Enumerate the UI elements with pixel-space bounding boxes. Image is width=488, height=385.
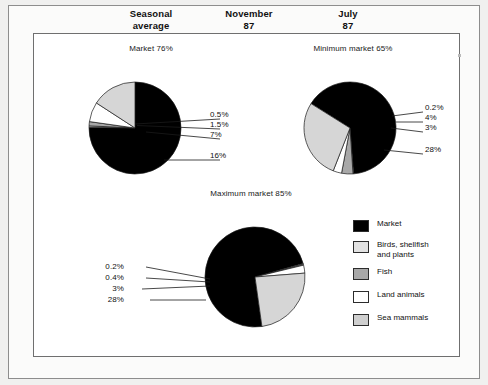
legend-label-birds-line1: Birds, shellfish [377,240,429,249]
header-row: Seasonal average November 87 July 87 [8,6,480,34]
pie-chart-2-leaders [334,78,449,188]
legend-label-market: Market [377,219,401,229]
header-column-july: July 87 [308,8,388,31]
legend-swatch-fish [353,268,369,280]
header-november-line2: 87 [204,20,294,32]
header-july-line1: July [308,8,388,20]
legend-label-sea-mammals: Sea mammals [377,313,428,323]
chart-1-title: Market 76% [96,44,206,53]
chart-3-callout-1: 0.4% [92,273,124,282]
page-canvas: Seasonal average November 87 July 87 Mar… [0,0,488,385]
chart-1-callout-1: 1.5% [210,120,229,129]
legend-label-fish: Fish [377,267,392,277]
chart-3-callout-2: 3% [92,284,124,293]
header-seasonal-line2: average [106,20,196,32]
legend-label-birds-line2: and plants [377,250,414,259]
chart-3-title: Maximum market 85% [186,189,316,198]
chart-2-callout-1: 4% [425,113,437,122]
chart-2-callout-3: 28% [425,145,441,154]
header-seasonal-line1: Seasonal [106,8,196,20]
header-july-line2: 87 [308,20,388,32]
chart-1-callout-3: 16% [210,151,226,160]
chart-2-callout-2: 3% [425,123,437,132]
legend-swatch-market [353,220,369,232]
chart-frame: Market 76% 0.5% 1.5% 7% 16% Minimum mark… [33,33,460,357]
chart-3-callout-0: 0.2% [92,262,124,271]
header-column-november: November 87 [204,8,294,31]
header-november-line1: November [204,8,294,20]
chart-3-callout-3: 28% [88,295,124,304]
legend-swatch-sea-mammals [353,314,369,326]
pie-chart-1-leaders [124,78,244,188]
pie-chart-3-leaders [122,222,232,332]
chart-2-callout-0: 0.2% [425,103,444,112]
pie-slice [255,273,305,326]
legend: Market Birds, shellfishand plants Fish L… [353,220,458,335]
chart-1-callout-0: 0.5% [210,110,229,119]
legend-label-birds-shellfish-and-plants: Birds, shellfishand plants [377,240,429,259]
scan-speck [458,54,461,57]
legend-swatch-birds-shellfish-and-plants [353,241,369,253]
chart-2-title: Minimum market 65% [288,44,418,53]
legend-swatch-land-animals [353,291,369,303]
legend-label-land-animals: Land animals [377,290,425,300]
header-column-seasonal-average: Seasonal average [106,8,196,31]
chart-1-callout-2: 7% [210,130,222,139]
